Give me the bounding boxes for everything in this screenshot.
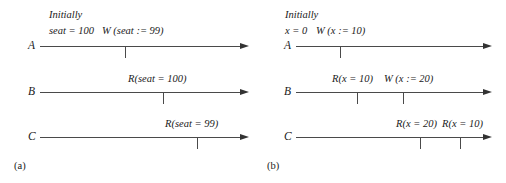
- process-label-a-C: C: [28, 131, 36, 143]
- timeline-axis-b-B: [296, 92, 489, 93]
- arrowhead-icon: [240, 134, 249, 140]
- timeline-axis-a-B: [40, 92, 246, 93]
- initial-state-a: seat = 100: [49, 26, 94, 37]
- initially-label-a: Initially: [49, 10, 82, 21]
- arrowhead-icon: [483, 89, 492, 95]
- event-tick: [125, 46, 126, 58]
- event-tick: [460, 137, 461, 149]
- process-label-b-A: A: [284, 40, 291, 52]
- arrowhead-icon: [240, 89, 249, 95]
- operation-label: R(x = 20): [396, 119, 437, 130]
- process-label-a-A: A: [28, 40, 35, 52]
- timeline-figure: Initially seat = 100 A W (seat := 99) B …: [0, 0, 506, 183]
- operation-label: R(x = 10): [442, 119, 483, 130]
- process-label-a-B: B: [28, 86, 35, 98]
- operation-label: W (x := 20): [384, 74, 433, 85]
- process-label-b-B: B: [284, 86, 291, 98]
- panel-b: Initially x = 0 A W (x := 10) B R(x = 10…: [253, 0, 506, 183]
- panel-caption-b: (b): [267, 161, 279, 172]
- event-tick: [163, 92, 164, 104]
- operation-label: W (seat := 99): [102, 26, 164, 37]
- timeline-axis-a-C: [40, 137, 246, 138]
- process-label-b-C: C: [284, 131, 292, 143]
- operation-label: W (x := 10): [316, 26, 365, 37]
- initial-state-b: x = 0: [285, 26, 307, 37]
- event-tick: [357, 92, 358, 104]
- event-tick: [197, 137, 198, 149]
- initially-label-b: Initially: [285, 10, 318, 21]
- operation-label: R(x = 10): [332, 74, 373, 85]
- timeline-axis-a-A: [40, 46, 246, 47]
- timeline-axis-b-A: [296, 46, 489, 47]
- event-tick: [340, 46, 341, 58]
- operation-label: R(seat = 100): [128, 74, 186, 85]
- panel-caption-a: (a): [14, 161, 26, 172]
- panel-a: Initially seat = 100 A W (seat := 99) B …: [0, 0, 253, 183]
- event-tick: [403, 92, 404, 104]
- arrowhead-icon: [240, 43, 249, 49]
- event-tick: [420, 137, 421, 149]
- arrowhead-icon: [483, 43, 492, 49]
- operation-label: R(seat = 99): [165, 119, 218, 130]
- arrowhead-icon: [483, 134, 492, 140]
